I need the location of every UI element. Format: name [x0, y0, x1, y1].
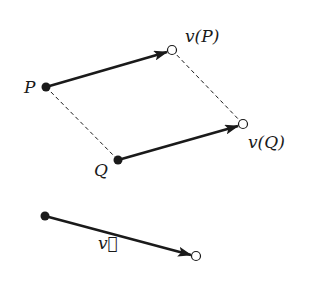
- label-vector-v: v⃗: [98, 233, 118, 253]
- arrow-vector-v: [45, 216, 191, 255]
- arrow-q-to-vq: [118, 126, 238, 160]
- point-vq: [239, 120, 248, 129]
- label-vq: v(Q): [248, 132, 285, 152]
- dashed-line-vp-vq: [172, 50, 243, 124]
- arrow-p-to-vp: [46, 52, 167, 87]
- point-q: [114, 156, 123, 165]
- point-v-start: [41, 212, 50, 221]
- dashed-line-p-q: [46, 87, 118, 160]
- point-p: [42, 83, 51, 92]
- point-vp: [168, 46, 177, 55]
- translation-diagram: P v(P) Q v(Q) v⃗: [0, 0, 312, 289]
- label-p: P: [23, 77, 36, 97]
- label-vp: v(P): [185, 26, 219, 46]
- point-v-end: [192, 252, 201, 261]
- label-q: Q: [94, 160, 108, 180]
